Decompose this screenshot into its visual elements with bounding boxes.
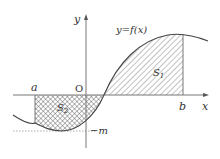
x-axis-arrow-icon	[203, 93, 209, 97]
region-s1	[104, 34, 183, 95]
x-axis-label: x	[202, 100, 209, 113]
y-axis-arrow-icon	[84, 14, 88, 20]
min-label: −m	[90, 125, 108, 136]
curve-label: y=f(x)	[115, 24, 147, 35]
b-label: b	[179, 100, 186, 113]
y-axis-label: y	[73, 13, 81, 26]
origin-label: O	[75, 83, 83, 94]
area-diagram: y x O a b −m y=f(x) S1 S2	[0, 0, 220, 159]
a-label: a	[31, 81, 38, 94]
